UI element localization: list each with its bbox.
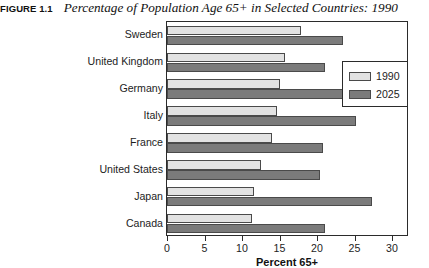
plot-frame bbox=[166, 21, 408, 236]
chart-legend: 19902025 bbox=[342, 61, 408, 107]
y-axis-label-canada: Canada bbox=[0, 217, 163, 229]
x-tick-label-30: 30 bbox=[377, 242, 407, 254]
x-tick-mark-5 bbox=[205, 236, 206, 241]
bar-canada-1990 bbox=[167, 214, 252, 224]
bar-france-2025 bbox=[167, 143, 323, 153]
x-axis-title: Percent 65+ bbox=[166, 256, 408, 268]
y-axis-category-labels: SwedenUnited KingdomGermanyItalyFranceUn… bbox=[0, 21, 163, 236]
x-tick-label-5: 5 bbox=[190, 242, 220, 254]
y-axis-label-united-states: United States bbox=[0, 163, 163, 175]
bar-chart: SwedenUnited KingdomGermanyItalyFranceUn… bbox=[0, 21, 429, 268]
bar-japan-2025 bbox=[167, 197, 372, 207]
y-axis-label-united-kingdom: United Kingdom bbox=[0, 55, 163, 67]
legend-swatch-2025 bbox=[349, 90, 371, 99]
bar-united-states-2025 bbox=[167, 170, 320, 180]
bar-united-states-1990 bbox=[167, 160, 261, 170]
x-tick-mark-30 bbox=[392, 236, 393, 241]
legend-label-2025: 2025 bbox=[376, 88, 400, 100]
y-axis-label-sweden: Sweden bbox=[0, 28, 163, 40]
y-axis-label-france: France bbox=[0, 136, 163, 148]
bar-canada-2025 bbox=[167, 224, 325, 234]
legend-entry-1990: 1990 bbox=[349, 69, 400, 83]
x-tick-mark-0 bbox=[167, 236, 168, 241]
legend-entry-2025: 2025 bbox=[349, 87, 400, 101]
y-axis-label-germany: Germany bbox=[0, 82, 163, 94]
bar-united-kingdom-2025 bbox=[167, 63, 325, 73]
bar-germany-2025 bbox=[167, 89, 351, 99]
x-tick-mark-20 bbox=[317, 236, 318, 241]
figure-title: Percentage of Population Age 65+ in Sele… bbox=[64, 0, 398, 15]
bar-germany-1990 bbox=[167, 79, 280, 89]
x-axis: Percent 65+ 051015202530 bbox=[166, 236, 408, 268]
x-tick-label-0: 0 bbox=[152, 242, 182, 254]
bar-sweden-2025 bbox=[167, 36, 343, 46]
bar-italy-1990 bbox=[167, 106, 277, 116]
x-tick-mark-10 bbox=[242, 236, 243, 241]
legend-label-1990: 1990 bbox=[376, 70, 400, 82]
x-tick-mark-15 bbox=[280, 236, 281, 241]
x-tick-label-25: 25 bbox=[340, 242, 370, 254]
bar-italy-2025 bbox=[167, 116, 356, 126]
bar-sweden-1990 bbox=[167, 26, 301, 36]
x-tick-label-20: 20 bbox=[302, 242, 332, 254]
y-axis-label-italy: Italy bbox=[0, 109, 163, 121]
bar-united-kingdom-1990 bbox=[167, 53, 285, 63]
figure-caption: FIGURE 1.1Percentage of Population Age 6… bbox=[0, 0, 429, 16]
legend-swatch-1990 bbox=[349, 72, 371, 81]
x-tick-mark-25 bbox=[355, 236, 356, 241]
x-tick-label-15: 15 bbox=[265, 242, 295, 254]
bar-france-1990 bbox=[167, 133, 272, 143]
figure-number: FIGURE 1.1 bbox=[0, 3, 53, 14]
bar-japan-1990 bbox=[167, 187, 254, 197]
y-axis-label-japan: Japan bbox=[0, 190, 163, 202]
x-tick-label-10: 10 bbox=[227, 242, 257, 254]
